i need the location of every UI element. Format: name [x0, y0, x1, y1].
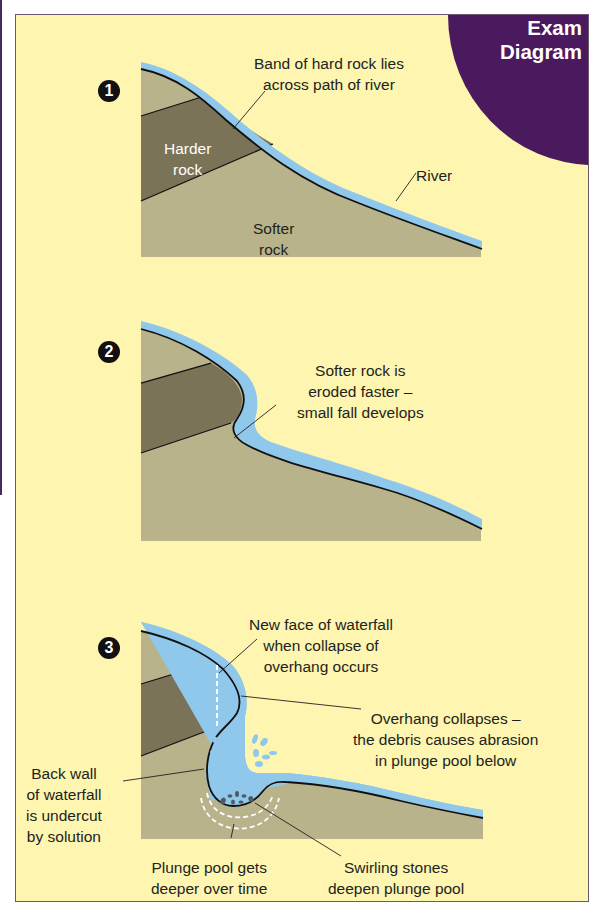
label-plunge-pool-deeper: Plunge pool gets deeper over time — [151, 857, 267, 899]
label-river: River — [416, 165, 452, 186]
label-overhang-collapses: Overhang collapses – the debris causes a… — [353, 708, 538, 771]
label-swirling-stones: Swirling stones deepen plunge pool — [328, 857, 464, 899]
label-back-wall-undercut: Back wall of waterfall is undercut by so… — [26, 763, 102, 847]
stage-3-number: 3 — [98, 637, 120, 659]
label-softer-rock-eroded: Softer rock is eroded faster – small fal… — [297, 360, 424, 423]
badge-line-2: Diagram — [500, 40, 582, 64]
label-harder-rock: Harder rock — [164, 138, 211, 180]
stage-2-number: 2 — [98, 341, 120, 363]
exam-diagram-badge: Exam Diagram — [500, 16, 582, 64]
label-new-face-of-waterfall: New face of waterfall when collapse of o… — [249, 614, 393, 677]
left-page-strip — [0, 0, 2, 495]
stage-2-diagram — [141, 321, 482, 541]
exam-diagram-frame: Exam Diagram 1 2 3 Band of hard rock lie… — [15, 14, 589, 902]
stage-1-number: 1 — [98, 80, 120, 102]
label-band-of-hard-rock: Band of hard rock lies across path of ri… — [254, 53, 404, 95]
badge-line-1: Exam — [500, 16, 582, 40]
label-softer-rock: Softer rock — [253, 218, 294, 260]
